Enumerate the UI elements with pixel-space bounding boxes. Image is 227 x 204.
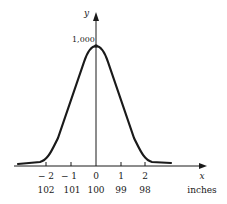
bell-curve <box>18 46 171 164</box>
x-tick-label: 0 <box>93 171 99 181</box>
peak-value-label: 1,000 <box>72 35 95 45</box>
x-tick-label: − 1 <box>61 171 77 181</box>
secondary-tick-label: 102 <box>37 185 54 195</box>
units-label: inches <box>187 185 216 195</box>
x-tick-label: 2 <box>142 171 148 181</box>
chart-canvas <box>0 0 227 204</box>
secondary-tick-label: 101 <box>63 185 80 195</box>
x-tick-label: − 2 <box>38 171 54 181</box>
y-axis-arrow-icon <box>93 12 99 21</box>
secondary-tick-label: 98 <box>139 185 150 195</box>
x-tick-label: 1 <box>118 171 124 181</box>
secondary-tick-label: 100 <box>87 185 104 195</box>
secondary-tick-label: 99 <box>115 185 126 195</box>
y-axis-label: y <box>84 8 89 18</box>
x-axis-arrow-icon <box>199 163 207 169</box>
x-axis-label: x <box>199 171 204 181</box>
